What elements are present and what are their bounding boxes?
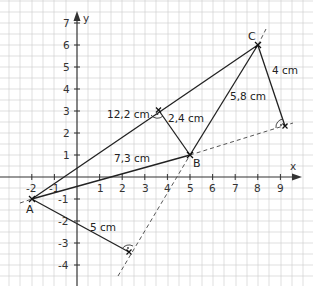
height-a-label: 5 cm [90,221,116,233]
svg-text:1: 1 [97,182,104,194]
grid [0,0,313,286]
svg-text:3: 3 [142,182,149,194]
svg-text:5: 5 [187,182,194,194]
coordinate-diagram: x y -2 -1 1 2 3 4 5 6 7 8 9 7 6 5 4 [0,0,313,286]
ab-length-label: 7,3 cm [114,152,150,164]
svg-text:4: 4 [63,83,70,95]
svg-text:5: 5 [63,61,70,73]
bc-extension-upper [258,29,266,45]
point-b-label: B [193,157,201,170]
ab-extension-right [190,123,293,155]
right-angle-mark-c-foot [276,119,283,128]
svg-text:6: 6 [209,182,216,194]
svg-text:-2: -2 [26,182,36,194]
svg-text:7: 7 [232,182,239,194]
x-axis: x [0,160,302,181]
height-c-label: 4 cm [272,64,298,76]
x-axis-label: x [290,160,296,172]
y-axis: y [74,11,90,286]
height-b-label: 2,4 cm [168,112,204,124]
svg-text:9: 9 [277,182,284,194]
svg-text:4: 4 [164,182,171,194]
svg-text:2: 2 [119,182,126,194]
point-c-label: C [248,30,256,43]
svg-text:7: 7 [63,17,70,29]
svg-text:8: 8 [254,182,261,194]
point-a-label: A [26,203,34,216]
svg-text:-4: -4 [58,259,69,271]
svg-text:3: 3 [63,105,70,117]
svg-text:6: 6 [63,39,70,51]
y-axis-label: y [83,12,89,24]
bc-length-label: 5,8 cm [230,90,266,102]
svg-text:2: 2 [63,127,70,139]
ac-length-label: 12,2 cm [107,108,150,120]
svg-text:1: 1 [63,149,70,161]
svg-text:-3: -3 [58,237,68,249]
svg-text:-1: -1 [58,193,68,205]
